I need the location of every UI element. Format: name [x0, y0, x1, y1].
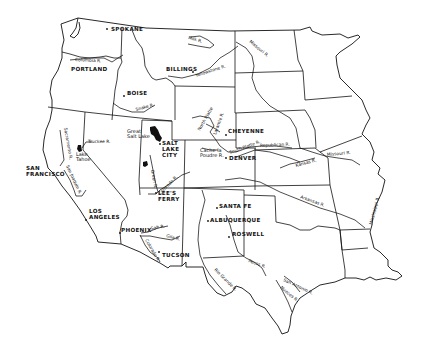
feature-label: Poudre R.	[200, 152, 224, 158]
river-label: Arkansas R.	[300, 194, 326, 207]
city-label: ANGELES	[89, 214, 120, 220]
river-label: Snake R.	[135, 102, 155, 112]
city-label: SANTA FE	[219, 203, 252, 209]
city-label: PORTLAND	[71, 66, 107, 72]
river-label: South Platte R.	[229, 139, 261, 155]
utah-lake	[143, 161, 148, 167]
feature-label: Tahoe	[75, 156, 91, 162]
western-us-map: SPOKANE PORTLAND BILLINGS BOISE CHEYENNE…	[0, 0, 421, 359]
city-label: TUCSON	[162, 252, 190, 258]
river-label: Sacramento R.	[63, 127, 74, 160]
city-label: CITY	[162, 152, 178, 158]
city-label: BILLINGS	[166, 66, 197, 72]
rivers	[60, 36, 365, 312]
feature-labels: Great Salt Lake Lake Tahoe Cache la Poud…	[75, 128, 224, 162]
river-label: Rio Grande R.	[213, 267, 238, 292]
city-label: SPOKANE	[111, 26, 143, 32]
river-labels: Milk R. Missouri R. Yellowstone R. Colum…	[63, 35, 380, 303]
river-label: Gila R.	[166, 233, 181, 242]
city-label: DENVER	[229, 155, 257, 161]
river-label: Pecos R.	[248, 258, 267, 269]
river-label: Yellowstone R.	[194, 63, 226, 78]
city-label: FRANCISCO	[26, 171, 65, 177]
river-label: Salt R.	[150, 224, 165, 231]
river-label: Missouri R.	[327, 150, 351, 157]
river-label: Mississippi R.	[368, 196, 380, 225]
city-label: BOISE	[127, 90, 147, 96]
river-label: North Platte	[197, 106, 215, 132]
river-label: Laramie R.	[212, 112, 225, 136]
city-label: ALBUQUERQUE	[210, 217, 261, 223]
city-label: ROSWELL	[232, 231, 264, 237]
city-label: CHEYENNE	[228, 128, 264, 134]
river-label: Green R.	[150, 169, 158, 189]
city-label: PHOENIX	[121, 227, 152, 233]
puget-sound	[70, 18, 80, 38]
river-label: Columbia R.	[75, 57, 102, 63]
river-label: Kansas R.	[295, 158, 317, 168]
river-label: Truckee R.	[87, 139, 111, 144]
city-label: FERRY	[158, 196, 180, 202]
great-salt-lake	[150, 126, 162, 142]
feature-label: Salt Lake	[127, 133, 150, 139]
